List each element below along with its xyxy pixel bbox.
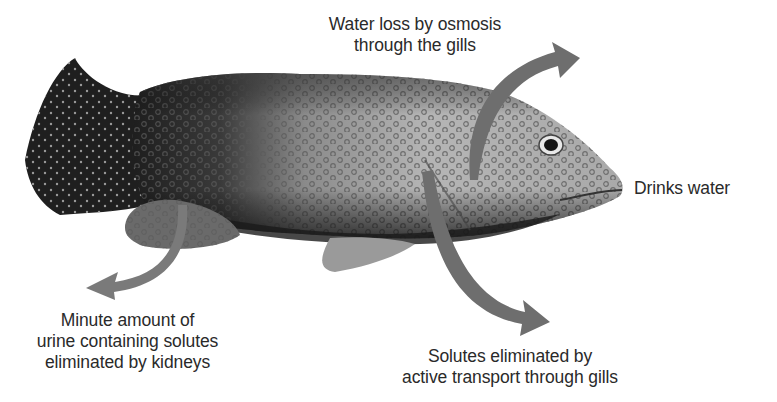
label-line: Solutes eliminated by <box>385 346 635 367</box>
label-water-loss-osmosis: Water loss by osmosis through the gills <box>300 14 530 56</box>
label-line: eliminated by kidneys <box>20 352 235 373</box>
label-drinks-water: Drinks water <box>634 178 730 199</box>
label-line: Drinks water <box>634 178 730 199</box>
label-line: urine containing solutes <box>20 331 235 352</box>
tail-fin <box>25 58 150 215</box>
label-line: through the gills <box>300 35 530 56</box>
pectoral-fin <box>322 237 415 272</box>
label-solutes-active-transport: Solutes eliminated by active transport t… <box>385 346 635 388</box>
label-line: active transport through gills <box>385 367 635 388</box>
label-urine-kidneys: Minute amount of urine containing solute… <box>20 310 235 373</box>
fish-eye <box>539 135 563 155</box>
label-line: Water loss by osmosis <box>300 14 530 35</box>
diagram-stage: Water loss by osmosis through the gills … <box>0 0 777 402</box>
label-line: Minute amount of <box>20 310 235 331</box>
